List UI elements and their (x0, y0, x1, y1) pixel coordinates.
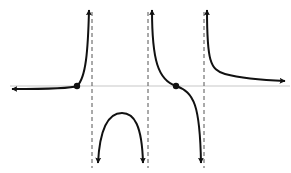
left-branch (12, 10, 89, 89)
x-intercept-point-2 (173, 83, 179, 89)
right-branch (207, 10, 285, 81)
function-graph (0, 0, 291, 173)
x-intercept-point-1 (74, 83, 80, 89)
middle-lower-branch (98, 113, 143, 163)
